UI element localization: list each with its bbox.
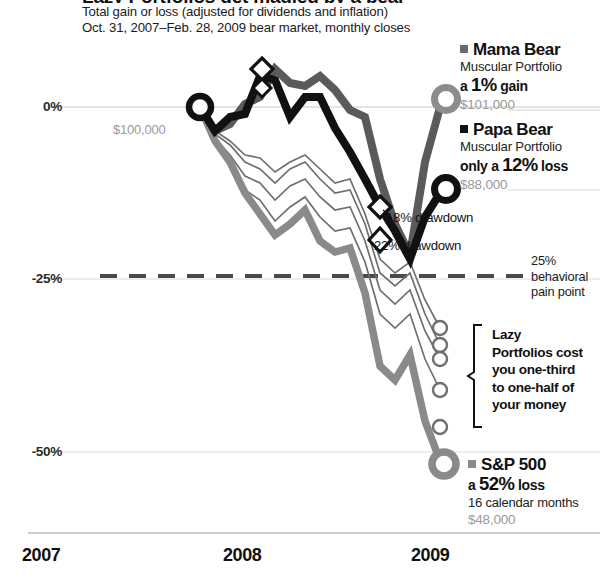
legend-papa-headline-pre: only a: [460, 158, 502, 174]
mama-bear-end-marker: [435, 88, 458, 111]
square-swatch-icon: [460, 125, 468, 133]
lazy-note-line3: you one-third: [492, 361, 583, 379]
lazy-line-2: [200, 107, 440, 345]
x-tick-2009: 2009: [411, 545, 449, 566]
legend-sp500-money: $48,000: [468, 511, 579, 528]
start-marker: [189, 96, 211, 118]
legend-mama-subtitle: Muscular Portfolio: [460, 59, 562, 75]
x-tick-2008: 2008: [223, 545, 261, 566]
legend-mama-name: Mama Bear: [473, 40, 560, 59]
legend-mama-money: $101,000: [460, 96, 562, 113]
legend-papa-name: Papa Bear: [473, 120, 553, 139]
legend-mama-headline: a 1% gain: [460, 75, 562, 96]
chart-canvas: Lazy Portfolios get mauled by a bear Tot…: [0, 0, 610, 577]
legend-mama-headline-post: gain: [497, 78, 528, 94]
legend-papa-subtitle: Muscular Portfolio: [460, 139, 568, 155]
lazy-portfolio-end-markers: [433, 321, 447, 434]
drawdown-22-label: 22% drawdown: [374, 238, 461, 253]
legend-mama-headline-pre: a: [460, 78, 471, 94]
lazy-portfolios-bracket: [468, 325, 482, 427]
legend-papa-headline: only a 12% loss: [460, 155, 568, 176]
legend-sp500-headline: a 52% loss: [468, 474, 579, 495]
legend-sp500-name-row: S&P 500: [468, 455, 579, 474]
legend-sp500-headline-post: loss: [514, 477, 544, 493]
legend-mama-name-row: Mama Bear: [460, 40, 562, 59]
pain-point-line3: pain point: [531, 284, 588, 300]
legend-papa-money: $88,000: [460, 176, 568, 193]
lazy-note-line1: Lazy: [492, 326, 583, 344]
legend-sp500-name: S&P 500: [481, 455, 546, 474]
pain-point-note: 25% behavioral pain point: [531, 253, 588, 300]
legend-papa-headline-post: loss: [537, 158, 567, 174]
legend-papa-bear: Papa Bear Muscular Portfolio only a 12% …: [460, 120, 568, 193]
legend-papa-name-row: Papa Bear: [460, 120, 568, 139]
y-tick-0: 0%: [0, 99, 62, 114]
square-swatch-icon: [460, 45, 468, 53]
legend-sp500: S&P 500 a 52% loss 16 calendar months $4…: [468, 455, 579, 528]
legend-mama-bear: Mama Bear Muscular Portfolio a 1% gain $…: [460, 40, 562, 113]
sp500-end-marker: [432, 452, 456, 476]
sp500-line: [200, 107, 442, 466]
x-tick-2007: 2007: [22, 545, 60, 566]
square-swatch-icon: [468, 460, 476, 468]
pain-point-line1: 25%: [531, 253, 588, 269]
legend-sp500-headline-pre: a: [468, 477, 479, 493]
lazy-note-line4: to one-half of: [492, 379, 583, 397]
legend-sp500-months: 16 calendar months: [468, 495, 579, 511]
legend-papa-headline-big: 12%: [502, 154, 537, 175]
lazy-note-line2: Portfolios cost: [492, 344, 583, 362]
lazy-portfolios-note: Lazy Portfolios cost you one-third to on…: [492, 326, 583, 414]
y-tick-50: -50%: [0, 444, 62, 459]
pain-point-line2: behavioral: [531, 269, 588, 285]
drawdown-18-label: 18% drawdown: [386, 210, 473, 225]
y-tick-25: -25%: [0, 271, 62, 286]
papa-bear-end-marker: [435, 178, 458, 201]
start-value-label: $100,000: [113, 122, 166, 137]
legend-mama-headline-big: 1%: [471, 74, 497, 95]
legend-sp500-headline-big: 52%: [479, 473, 514, 494]
lazy-note-line5: your money: [492, 396, 583, 414]
